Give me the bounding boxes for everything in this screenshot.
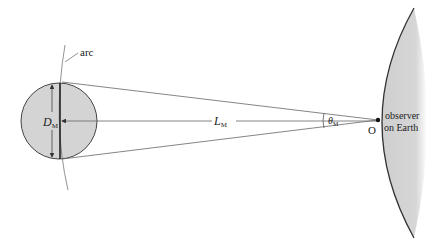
distance-label: LM (213, 114, 228, 129)
angle-arc (323, 113, 324, 128)
observer-label-line2: on Earth (384, 122, 418, 133)
angle-label: θM (328, 115, 339, 127)
observer-point (376, 118, 380, 122)
moon-angular-diameter-diagram: arc DM LM θM O observer on Earth (0, 0, 447, 250)
observer-label-line1: observer (385, 110, 420, 121)
observer-point-label: O (368, 124, 376, 136)
arc-leader-line (65, 53, 78, 62)
arc-label: arc (80, 46, 94, 58)
